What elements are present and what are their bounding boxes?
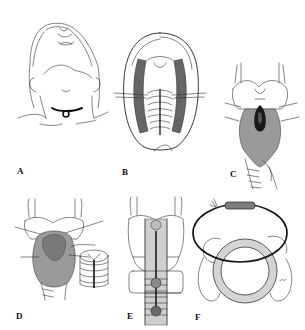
panel-b <box>110 25 210 160</box>
panel-e <box>125 195 190 325</box>
panel-label-c: C <box>230 170 237 179</box>
panel-label-e: E <box>127 312 133 321</box>
panel-a <box>0 0 110 165</box>
head-neck-illustration <box>0 0 110 165</box>
panel-label-b: B <box>122 168 128 177</box>
surgical-illustration-figure: A <box>0 0 305 330</box>
exposed-trachea-illustration <box>110 25 210 160</box>
tracheal-ring-cross-section-illustration <box>190 195 300 310</box>
inset-ring-illustration <box>78 248 110 294</box>
panel-label-a: A <box>17 167 24 176</box>
larynx-trachea-marked-illustration <box>125 195 190 325</box>
panel-label-d: D <box>16 312 23 321</box>
panel-label-f: F <box>195 313 201 322</box>
panel-f <box>190 195 300 310</box>
